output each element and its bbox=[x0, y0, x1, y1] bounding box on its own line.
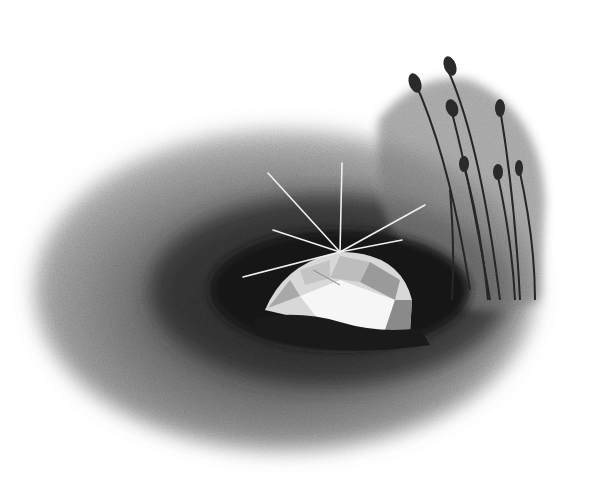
gem-in-hollow-drawing bbox=[0, 0, 591, 478]
illustration bbox=[0, 0, 591, 478]
